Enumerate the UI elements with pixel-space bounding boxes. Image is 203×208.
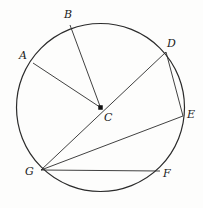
segment-F-G xyxy=(41,170,160,171)
segment-D-E xyxy=(166,52,183,116)
point-label-d: D xyxy=(167,38,176,49)
point-label-e: E xyxy=(187,109,195,120)
segment-E-G xyxy=(41,116,183,170)
segment-A-C xyxy=(33,63,101,108)
point-label-f: F xyxy=(163,168,171,179)
point-label-b: B xyxy=(64,9,72,20)
segment-B-C xyxy=(70,25,101,108)
point-label-g: G xyxy=(25,166,34,177)
geometry-figure: A B C D E F G xyxy=(0,0,203,208)
center-point-marker xyxy=(98,105,103,110)
point-label-c: C xyxy=(104,112,112,123)
point-label-a: A xyxy=(19,50,27,61)
